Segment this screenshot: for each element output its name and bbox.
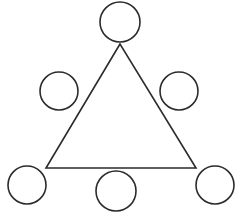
circle-mid-right: [160, 72, 198, 110]
circle-top-apex: [100, 2, 140, 42]
circle-bottom-center: [96, 171, 136, 211]
geometric-diagram: [0, 0, 242, 217]
circle-mid-left: [40, 72, 78, 110]
circle-bottom-left: [8, 166, 46, 204]
triangle-shape: [46, 44, 196, 168]
diagram-canvas: Triangle surrounded by six circles: [0, 0, 242, 217]
circle-bottom-right: [196, 166, 234, 204]
